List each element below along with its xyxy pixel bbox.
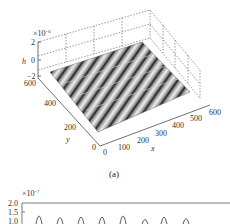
figure: 2 0 −2 h ×10−6 600 400 200 y 0 0 100 200… (0, 0, 230, 224)
y-tick-0: 0 (92, 143, 96, 152)
x-tick-0: 0 (103, 148, 107, 157)
panel-b-tick-2-0: 2.0 (8, 199, 18, 208)
panel-b-exponent: ×10−7 (22, 189, 40, 198)
y-tick-400: 400 (44, 99, 56, 108)
z-exponent: ×10−6 (33, 29, 51, 38)
x-tick-100: 100 (118, 143, 130, 152)
z-axis (38, 42, 41, 78)
x-tick-500: 500 (190, 114, 202, 123)
surface-plot (50, 42, 190, 132)
z-axis-label: h (22, 57, 26, 66)
z-tick-2: 2 (31, 38, 35, 47)
panel-b-axes (22, 203, 230, 224)
panel-b-peaks (36, 216, 189, 224)
x-tick-600: 600 (209, 108, 221, 117)
panel-b-tick-1-0: 1.0 (8, 217, 18, 224)
x-axis-label: x (150, 144, 155, 153)
panel-a-caption: (a) (109, 169, 119, 179)
panel-b-tick-1-5: 1.5 (8, 208, 18, 217)
y-tick-200: 200 (64, 123, 76, 132)
x-tick-400: 400 (172, 121, 184, 130)
x-tick-200: 200 (137, 136, 149, 145)
x-tick-300: 300 (155, 129, 167, 138)
z-tick-0: 0 (31, 56, 35, 65)
y-axis-label: y (65, 135, 70, 144)
y-tick-600: 600 (24, 79, 36, 88)
